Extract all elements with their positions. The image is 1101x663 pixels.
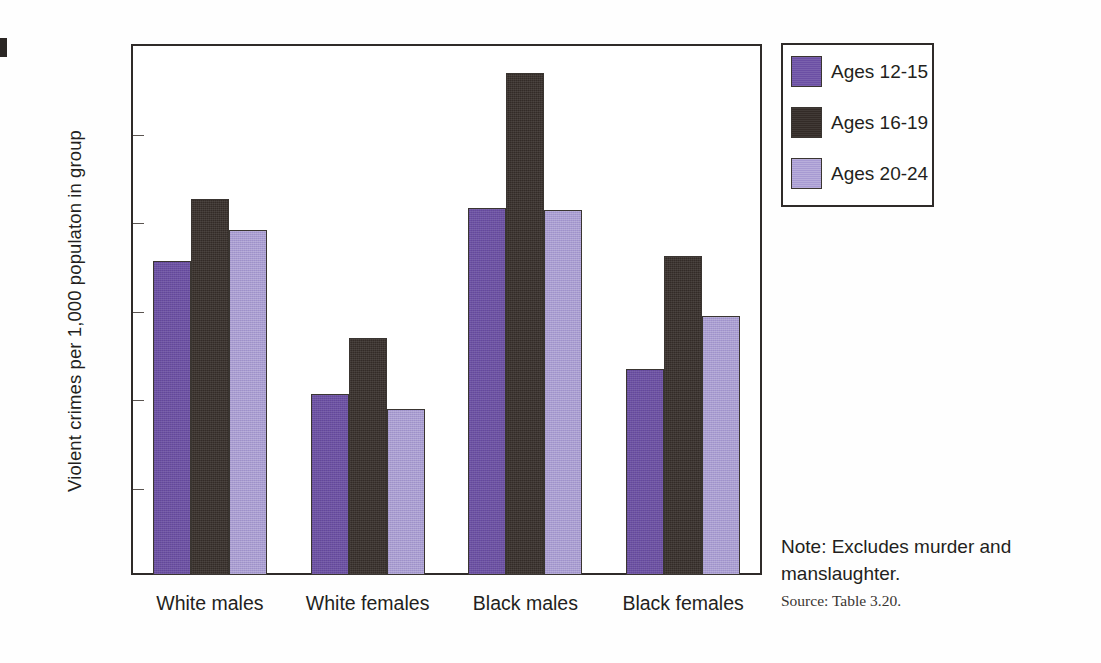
legend-item: Ages 16-19 [791, 107, 928, 138]
source-text: Source: Table 3.20. [781, 592, 1061, 610]
note-text: Note: Excludes murder and manslaughter. [781, 533, 1061, 587]
legend-swatch [791, 56, 822, 87]
bar [311, 394, 349, 575]
legend-label: Ages 20-24 [831, 163, 928, 185]
bar [702, 316, 740, 575]
page-edge-artifact [0, 38, 7, 57]
bar [153, 261, 191, 575]
bar [506, 73, 544, 575]
legend-item: Ages 12-15 [791, 56, 928, 87]
bar [626, 369, 664, 575]
bar [544, 210, 582, 575]
bar [664, 256, 702, 575]
footnote-block: Note: Excludes murder and manslaughter. … [781, 533, 1061, 610]
bar [468, 208, 506, 575]
chart-page: Violent crimes per 1,000 populaton in gr… [0, 0, 1101, 663]
legend-label: Ages 12-15 [831, 61, 928, 83]
legend-swatch [791, 107, 822, 138]
x-axis-label: Black females [583, 592, 783, 615]
legend-item: Ages 20-24 [791, 158, 928, 189]
y-axis-title: Violent crimes per 1,000 populaton in gr… [64, 61, 86, 561]
legend-label: Ages 16-19 [831, 112, 928, 134]
legend: Ages 12-15Ages 16-19Ages 20-24 [781, 43, 934, 207]
bar [349, 338, 387, 575]
bar [191, 199, 229, 575]
bar [229, 230, 267, 575]
bars-layer [131, 44, 762, 575]
bar [387, 409, 425, 575]
legend-swatch [791, 158, 822, 189]
